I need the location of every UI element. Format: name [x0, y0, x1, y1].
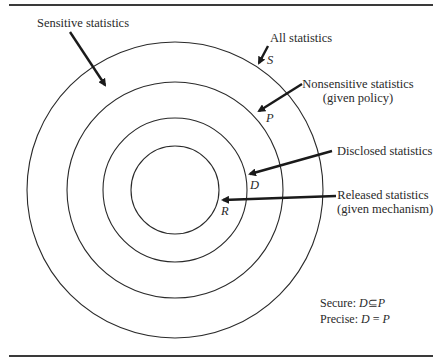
- all-statistics-label: All statistics: [270, 31, 332, 45]
- precise-label: Precise:: [320, 312, 358, 326]
- nonsensitive-statistics-label: Nonsensitive statistics (given policy): [283, 77, 433, 105]
- released-arrow: [223, 196, 336, 200]
- secure-operator: ⊆: [368, 296, 378, 310]
- nonsensitive-line-2: (given policy): [283, 91, 433, 105]
- precise-lhs: D: [361, 312, 370, 326]
- precise-operator: =: [373, 312, 380, 326]
- released-statistics-label: Released statistics (given mechanism): [337, 188, 429, 216]
- released-statistics-circle: [131, 146, 219, 234]
- secure-rhs: P: [378, 296, 385, 310]
- variable-r: R: [221, 204, 229, 219]
- variable-p: P: [266, 111, 274, 126]
- variable-d: D: [250, 178, 259, 193]
- disclosed-arrow: [250, 151, 332, 174]
- sensitive-statistics-label: Sensitive statistics: [37, 16, 129, 30]
- disclosed-statistics-circle: [103, 118, 247, 262]
- released-line-1: Released statistics: [337, 188, 429, 202]
- secure-condition: Secure: D⊆P: [320, 295, 385, 311]
- secure-label: Secure:: [320, 296, 356, 310]
- disclosed-statistics-label: Disclosed statistics: [337, 144, 432, 158]
- precise-rhs: P: [382, 312, 389, 326]
- nonsensitive-line-1: Nonsensitive statistics: [283, 77, 433, 91]
- precise-condition: Precise: D = P: [320, 311, 390, 327]
- all-statistics-circle: [27, 42, 323, 338]
- sensitive-arrow: [70, 32, 105, 85]
- released-line-2: (given mechanism): [337, 202, 429, 216]
- secure-lhs: D: [359, 296, 368, 310]
- variable-s: S: [267, 53, 273, 68]
